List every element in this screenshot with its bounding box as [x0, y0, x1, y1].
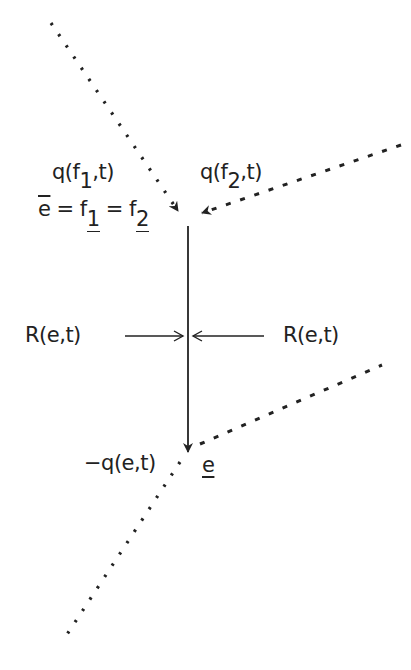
- label-e-underlined: e: [202, 455, 214, 476]
- q-f2-suffix: ,t): [240, 160, 262, 184]
- label-equality: e = f1 = f2: [38, 199, 149, 232]
- outgoing-left-edge: [62, 462, 180, 642]
- label-r-left: R(e,t): [25, 325, 81, 346]
- label-neg-q: −q(e,t): [84, 453, 156, 474]
- q-f1-prefix: q(f: [52, 160, 79, 184]
- label-r-right: R(e,t): [283, 325, 339, 346]
- q-f1-sub: 1: [79, 169, 92, 193]
- eq-f2: = f: [100, 197, 136, 221]
- eq-sub1: 1: [87, 209, 100, 232]
- label-q-f2: q(f2,t): [200, 162, 262, 183]
- q-f2-sub: 2: [227, 169, 240, 193]
- e-bar: e: [38, 197, 50, 221]
- label-q-f1: q(f1,t): [52, 162, 114, 183]
- eq-sub2: 2: [136, 209, 149, 232]
- q-f1-suffix: ,t): [92, 160, 114, 184]
- outgoing-right-edge: [200, 365, 382, 444]
- eq-f1: = f: [50, 197, 86, 221]
- q-f2-prefix: q(f: [200, 160, 227, 184]
